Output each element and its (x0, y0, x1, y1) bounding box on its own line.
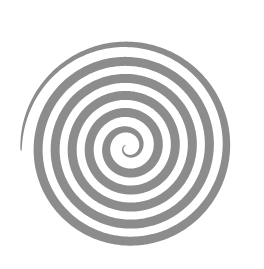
spiral-graphic (0, 0, 264, 269)
image-canvas (0, 0, 264, 269)
